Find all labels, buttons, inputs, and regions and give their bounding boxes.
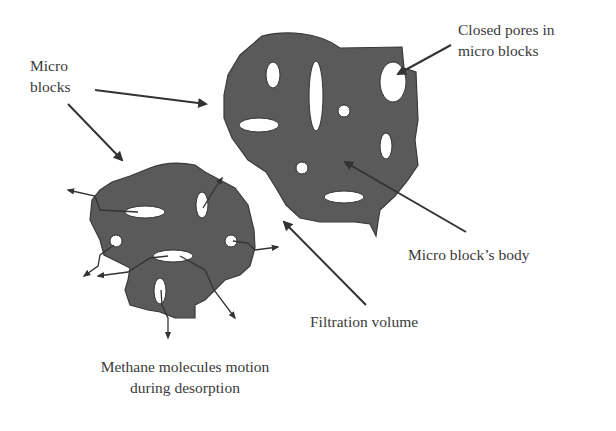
micro-blocks-arrow-down bbox=[68, 104, 122, 160]
pore bbox=[239, 118, 279, 132]
pore bbox=[110, 235, 122, 247]
pore bbox=[338, 105, 350, 117]
pore bbox=[309, 61, 323, 131]
pore bbox=[380, 62, 406, 102]
pore bbox=[196, 192, 208, 218]
pore bbox=[324, 191, 364, 203]
closed-pores-label-line1: Closed pores in bbox=[458, 19, 554, 40]
methane-label-line2: during desorption bbox=[60, 377, 310, 398]
closed-pores-arrow bbox=[398, 45, 451, 74]
methane-motion-label: Methane molecules motion during desorpti… bbox=[60, 356, 310, 398]
large-micro-block bbox=[224, 33, 418, 236]
pore bbox=[380, 133, 392, 159]
filtration-volume-label: Filtration volume bbox=[310, 311, 418, 332]
pore bbox=[266, 62, 280, 88]
closed-pores-label: Closed pores in micro blocks bbox=[458, 19, 554, 61]
pore bbox=[296, 162, 308, 174]
pore bbox=[154, 278, 166, 304]
methane-label-line1: Methane molecules motion bbox=[60, 356, 310, 377]
micro-blocks-label-line1: Micro bbox=[30, 55, 70, 76]
block-body-label: Micro block’s body bbox=[408, 244, 529, 265]
filtration-volume-arrow bbox=[284, 222, 366, 305]
closed-pores-label-line2: micro blocks bbox=[458, 40, 554, 61]
micro-blocks-label: Micro blocks bbox=[30, 55, 70, 97]
micro-blocks-label-line2: blocks bbox=[30, 76, 70, 97]
micro-blocks-arrow-right bbox=[95, 90, 206, 104]
small-micro-block bbox=[68, 163, 278, 338]
